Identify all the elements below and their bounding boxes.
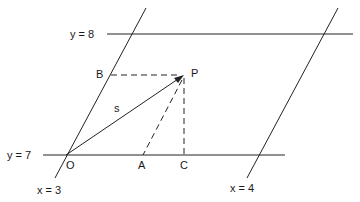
point-label-a: A [138,160,145,171]
point-label-o: O [66,160,75,171]
point-label-p: P [191,68,198,79]
label-x4: x = 4 [230,183,254,194]
segment-pa [143,80,182,155]
vector-label-s: s [114,103,120,114]
point-label-c: C [180,160,188,171]
arrowhead-p [174,75,184,83]
diagram-canvas [0,0,360,202]
label-x3: x = 3 [37,185,61,196]
point-label-b: B [96,69,103,80]
label-y8: y = 8 [70,29,94,40]
label-y7: y = 7 [7,150,31,161]
line-x3 [55,8,146,178]
